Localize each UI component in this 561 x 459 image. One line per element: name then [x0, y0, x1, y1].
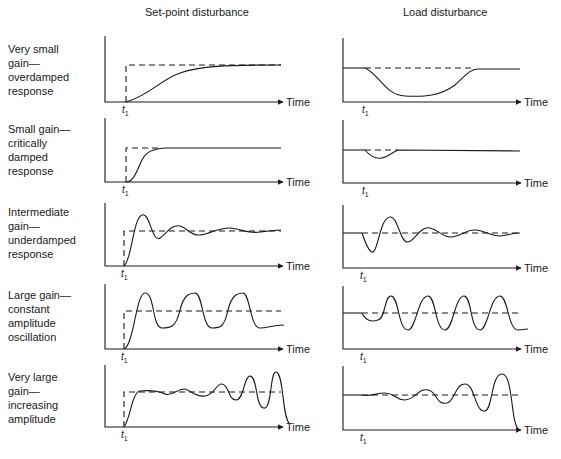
event-marker-t1: t1 — [121, 429, 128, 442]
plot-setpoint-underdamped — [105, 203, 283, 266]
plot-setpoint-overdamped — [105, 36, 283, 102]
time-axis-label: Time — [524, 424, 548, 436]
event-marker-t1: t1 — [122, 104, 129, 117]
plot-setpoint-critically-damped — [105, 118, 283, 182]
event-marker-t1: t1 — [362, 185, 369, 198]
event-marker-t1: t1 — [360, 270, 367, 283]
time-axis-label: Time — [286, 176, 310, 188]
event-marker-t1: t1 — [121, 351, 128, 364]
plot-load-critically-damped — [343, 120, 521, 183]
plot-setpoint-increasing-amplitude — [105, 365, 290, 427]
event-marker-t1: t1 — [121, 268, 128, 281]
plot-load-underdamped — [343, 205, 521, 268]
time-axis-label: Time — [524, 343, 548, 355]
time-axis-label: Time — [524, 177, 548, 189]
plot-setpoint-constant-oscillation — [105, 284, 284, 349]
response-plots — [0, 0, 561, 459]
time-axis-label: Time — [286, 96, 310, 108]
plot-load-increasing-amplitude — [343, 366, 521, 430]
plot-load-overdamped — [343, 38, 521, 102]
time-axis-label: Time — [524, 262, 548, 274]
time-axis-label: Time — [286, 421, 310, 433]
plot-load-constant-oscillation — [343, 286, 528, 349]
event-marker-t1: t1 — [360, 351, 367, 364]
time-axis-label: Time — [286, 260, 310, 272]
time-axis-label: Time — [524, 96, 548, 108]
event-marker-t1: t1 — [122, 184, 129, 197]
event-marker-t1: t1 — [362, 104, 369, 117]
time-axis-label: Time — [286, 343, 310, 355]
event-marker-t1: t1 — [360, 432, 367, 445]
